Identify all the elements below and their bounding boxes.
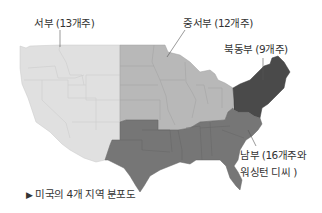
caption-text: 미국의 4개 지역 분포도 xyxy=(35,188,135,200)
map-caption: ▶ 미국의 4개 지역 분포도 xyxy=(26,189,135,200)
label-midwest: 중서부 (12개주) xyxy=(183,18,253,29)
region-west xyxy=(20,45,120,162)
label-northeast: 북동부 (9개주) xyxy=(224,44,288,55)
region-midwest xyxy=(120,45,234,130)
caption-marker-icon: ▶ xyxy=(26,190,32,200)
label-south-line2: 워싱턴 디씨 ) xyxy=(240,167,297,178)
midwest-pointer-line xyxy=(167,30,185,57)
region-northeast xyxy=(233,56,290,118)
label-west: 서부 (13개주) xyxy=(34,18,94,29)
label-south-line1: 남부 (16개주와 xyxy=(240,150,306,161)
us-regions-map xyxy=(0,0,322,213)
